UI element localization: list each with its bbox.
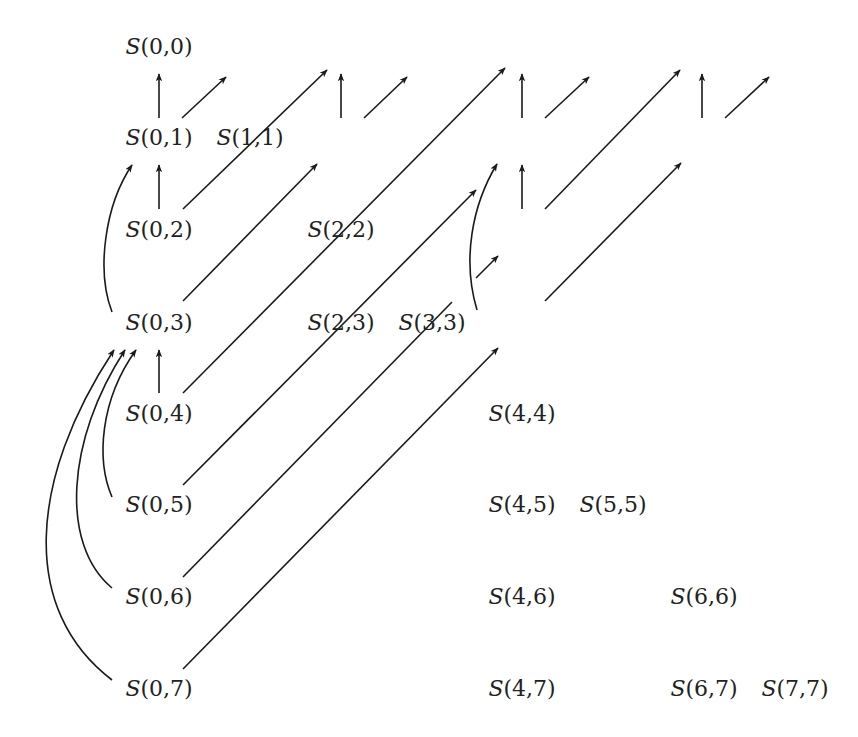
edge-arrow-6-7-to-7-7	[725, 77, 769, 118]
node-prefix: S	[670, 676, 685, 701]
node-prefix: S	[125, 217, 140, 242]
node-args: (0,0)	[140, 34, 192, 59]
node-prefix: S	[125, 34, 140, 59]
node-s-4-5: S(4,5)	[488, 492, 555, 517]
edge-arrow-4-6-to-6-6	[545, 70, 680, 209]
node-s-0-7: S(0,7)	[125, 676, 192, 701]
node-s-0-5: S(0,5)	[125, 492, 192, 517]
nodes-layer: S(0,0)S(1,1)S(2,2)S(3,3)S(4,4)S(5,5)S(6,…	[125, 34, 828, 701]
node-prefix: S	[125, 401, 140, 426]
node-args: (7,7)	[776, 676, 828, 701]
node-s-6-7: S(6,7)	[670, 676, 737, 701]
node-s-2-3: S(2,3)	[307, 310, 374, 335]
node-s-5-5: S(5,5)	[579, 492, 646, 517]
edge-arrow-4-7-to-6-7	[545, 163, 681, 301]
node-prefix: S	[670, 584, 685, 609]
edge-arrow-0-6-to-4-6-segment	[476, 256, 498, 278]
node-prefix: S	[488, 492, 503, 517]
edge-arrow-0-1-to-1-1	[182, 77, 226, 118]
node-args: (5,5)	[594, 492, 646, 517]
edge-arrow-4-7-to-4-5	[470, 164, 497, 310]
edge-arrow-0-6-to-0-3	[77, 350, 125, 588]
node-args: (4,6)	[503, 584, 555, 609]
node-args: (6,6)	[685, 584, 737, 609]
node-prefix: S	[579, 492, 594, 517]
node-s-0-0: S(0,0)	[125, 34, 192, 59]
node-args: (0,5)	[140, 492, 192, 517]
node-s-2-2: S(2,2)	[307, 217, 374, 242]
edge-arrow-0-6-to-4-6	[183, 302, 452, 577]
node-s-1-1: S(1,1)	[216, 125, 283, 150]
node-args: (2,2)	[322, 217, 374, 242]
node-s-0-6: S(0,6)	[125, 584, 192, 609]
edge-arrow-4-5-to-5-5	[545, 77, 589, 118]
node-s-4-7: S(4,7)	[488, 676, 555, 701]
node-prefix: S	[125, 492, 140, 517]
node-args: (0,1)	[140, 125, 192, 150]
node-prefix: S	[761, 676, 776, 701]
edge-arrow-0-7-to-4-7	[183, 348, 498, 669]
edge-arrow-0-7-to-0-3	[46, 350, 114, 680]
node-prefix: S	[488, 584, 503, 609]
node-s-4-4: S(4,4)	[488, 401, 555, 426]
node-args: (6,7)	[685, 676, 737, 701]
node-args: (0,7)	[140, 676, 192, 701]
node-args: (0,4)	[140, 401, 192, 426]
node-prefix: S	[216, 125, 231, 150]
node-args: (0,3)	[140, 310, 192, 335]
node-prefix: S	[125, 310, 140, 335]
node-args: (1,1)	[231, 125, 283, 150]
node-s-4-6: S(4,6)	[488, 584, 555, 609]
node-prefix: S	[488, 401, 503, 426]
node-prefix: S	[125, 584, 140, 609]
node-args: (2,3)	[322, 310, 374, 335]
node-s-0-2: S(0,2)	[125, 217, 192, 242]
node-args: (4,7)	[503, 676, 555, 701]
node-prefix: S	[398, 310, 413, 335]
node-s-0-4: S(0,4)	[125, 401, 192, 426]
edge-arrow-2-3-to-3-3	[364, 77, 407, 118]
node-prefix: S	[307, 217, 322, 242]
node-prefix: S	[488, 676, 503, 701]
node-s-0-3: S(0,3)	[125, 310, 192, 335]
node-s-3-3: S(3,3)	[398, 310, 465, 335]
node-args: (3,3)	[413, 310, 465, 335]
node-prefix: S	[125, 125, 140, 150]
node-args: (0,2)	[140, 217, 192, 242]
node-s-6-6: S(6,6)	[670, 584, 737, 609]
dependency-diagram: S(0,0)S(1,1)S(2,2)S(3,3)S(4,4)S(5,5)S(6,…	[0, 0, 858, 737]
node-prefix: S	[125, 676, 140, 701]
node-prefix: S	[307, 310, 322, 335]
node-args: (4,4)	[503, 401, 555, 426]
node-args: (0,6)	[140, 584, 192, 609]
node-s-7-7: S(7,7)	[761, 676, 828, 701]
node-s-0-1: S(0,1)	[125, 125, 192, 150]
edge-arrow-0-3-to-2-3	[183, 164, 317, 301]
node-args: (4,5)	[503, 492, 555, 517]
